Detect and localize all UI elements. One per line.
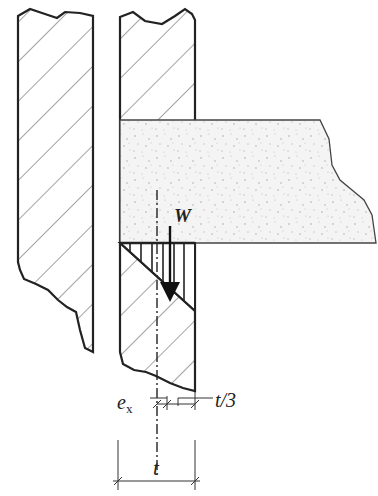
- left-wall: [0, 0, 120, 400]
- eccentricity-label: ex: [117, 391, 133, 416]
- thickness-label: t: [153, 456, 160, 480]
- wall-slab-bearing-diagram: W ex t/3 t: [0, 0, 378, 496]
- load-label: W: [174, 205, 192, 226]
- concrete-slab: [120, 120, 376, 243]
- third-label: t/3: [215, 389, 236, 411]
- eccentricity-dimension: [150, 392, 213, 410]
